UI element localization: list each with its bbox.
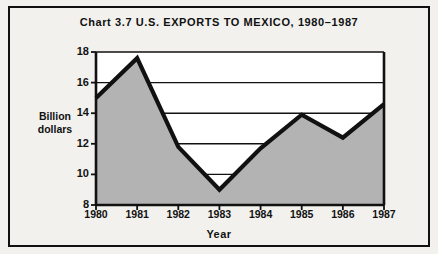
x-axis-title: Year	[0, 228, 438, 240]
y-tick-label-16: 16	[55, 76, 89, 88]
x-tick-label-1987: 1987	[361, 208, 407, 220]
x-tick-label-1984: 1984	[238, 208, 284, 220]
chart-figure: Chart 3.7 U.S. EXPORTS TO MEXICO, 1980–1…	[0, 0, 438, 254]
y-tick-label-12: 12	[55, 137, 89, 149]
y-axis-title-line-2: dollars	[38, 123, 72, 135]
chart-svg	[96, 52, 384, 205]
x-tick-label-1980: 1980	[73, 208, 119, 220]
y-tick-label-18: 18	[55, 45, 89, 57]
x-tick-label-1982: 1982	[155, 208, 201, 220]
y-tick-label-14: 14	[55, 106, 89, 118]
y-tick-label-10: 10	[55, 167, 89, 179]
x-tick-label-1986: 1986	[320, 208, 366, 220]
plot-area	[96, 52, 384, 205]
chart-title: Chart 3.7 U.S. EXPORTS TO MEXICO, 1980–1…	[0, 16, 438, 28]
x-tick-label-1983: 1983	[196, 208, 242, 220]
x-tick-label-1985: 1985	[279, 208, 325, 220]
x-tick-label-1981: 1981	[114, 208, 160, 220]
